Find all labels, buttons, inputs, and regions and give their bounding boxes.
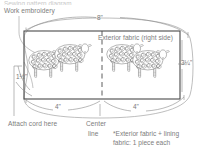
label-exterior-fabric: Exterior fabric (right side) (98, 34, 173, 42)
dimension-line-right (178, 40, 186, 92)
sheep-illustration-left-2 (55, 44, 92, 71)
dimension-label-bottom-left-width: 4" (55, 103, 61, 110)
note-fabric-line-1: *Exterior fabric + lining (113, 130, 179, 139)
dimension-label-left-height: 1½" (16, 73, 27, 80)
dimension-line-left (14, 66, 32, 96)
dimension-label-bottom-right-width: 4" (133, 103, 139, 110)
dimension-line-bottom-right (104, 95, 184, 111)
label-attach-cord-here: Attach cord here (8, 120, 57, 128)
dimension-line-bottom-left (26, 98, 100, 110)
note-fabric-line-2: fabric: 1 piece each (113, 139, 179, 148)
sheep-illustration-right-2 (133, 50, 170, 77)
dimension-label-top-width: 8" (97, 14, 103, 21)
label-center-line: line (88, 130, 98, 138)
sewing-pattern-diagram: Sewing pattern diagram (0, 0, 207, 160)
dimension-label-right-height: 3¼" (181, 59, 192, 66)
label-center: Center (86, 120, 106, 128)
label-work-embroidery: Work embroidery (4, 7, 55, 15)
note-fabric-pieces: *Exterior fabric + lining fabric: 1 piec… (113, 130, 179, 147)
